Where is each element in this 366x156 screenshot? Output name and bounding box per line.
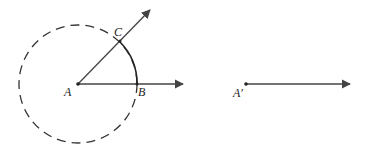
label-a-prime: A′ [232, 86, 243, 100]
label-b: B [138, 85, 146, 99]
label-c: C [114, 25, 123, 39]
point-c [119, 40, 122, 43]
arc-bc [120, 42, 137, 84]
label-a: A [63, 85, 72, 99]
angle-construction-diagram: A B C A′ [0, 0, 366, 156]
point-a [76, 82, 80, 86]
point-a-prime [244, 82, 248, 86]
ray-ac [78, 10, 150, 84]
